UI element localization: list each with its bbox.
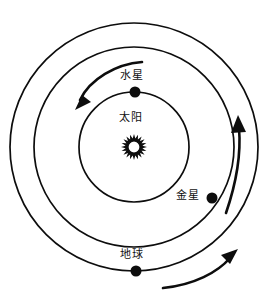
venus-direction-arrow — [226, 115, 246, 213]
venus-arrow-head — [231, 115, 246, 133]
venus-label: 金星 — [176, 190, 199, 202]
earth-dot — [131, 266, 142, 277]
earth-label: 地球 — [120, 249, 143, 261]
orbit-diagram: 太阳 水星 金星 地球 — [0, 0, 270, 299]
venus-dot — [207, 193, 218, 204]
sun-core — [128, 141, 140, 153]
mercury-dot — [130, 87, 141, 98]
sun-icon — [121, 134, 147, 160]
mercury-arrow-head — [75, 95, 91, 110]
mercury-label: 水星 — [120, 70, 143, 82]
sun-label: 太阳 — [119, 112, 142, 124]
earth-arrow-head — [221, 249, 238, 264]
earth-direction-arrow — [163, 249, 238, 288]
